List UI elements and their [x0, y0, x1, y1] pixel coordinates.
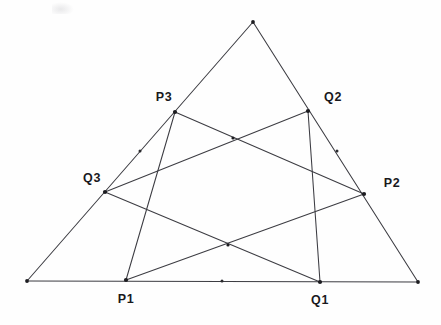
point-q3: [103, 190, 107, 194]
cevian-Q2-Q1: [308, 111, 320, 282]
edge-AC: [253, 22, 418, 282]
point-upper-crossing: [231, 136, 234, 139]
point-b: [25, 279, 29, 283]
point-p2: [362, 192, 366, 196]
point-c: [416, 280, 420, 284]
geometry-canvas: [0, 0, 441, 325]
cevian-P3-P1: [126, 112, 175, 280]
point-a: [251, 20, 255, 24]
label-q3: Q3: [83, 171, 101, 185]
label-q1: Q1: [311, 293, 329, 307]
label-p2: P2: [384, 176, 401, 190]
label-p1: P1: [118, 292, 135, 306]
cevian-Q3-Q2: [105, 111, 308, 192]
label-p3: P3: [156, 90, 173, 104]
point-mid-bottom-tick: [221, 280, 224, 283]
point-q1: [318, 280, 322, 284]
point-right-edge-tick: [336, 150, 339, 153]
cevian-P1-P2: [126, 194, 364, 280]
points-group: [25, 20, 420, 284]
point-p3: [173, 110, 177, 114]
point-q2: [306, 109, 310, 113]
label-q2: Q2: [324, 90, 342, 104]
cevian-Q3-Q1: [105, 192, 320, 282]
point-p1: [124, 278, 128, 282]
point-left-edge-tick: [139, 150, 142, 153]
geometry-figure: P1 Q1 P2 Q2 P3 Q3: [0, 0, 441, 325]
point-lower-crossing: [226, 243, 229, 246]
segments-group: [27, 22, 418, 282]
